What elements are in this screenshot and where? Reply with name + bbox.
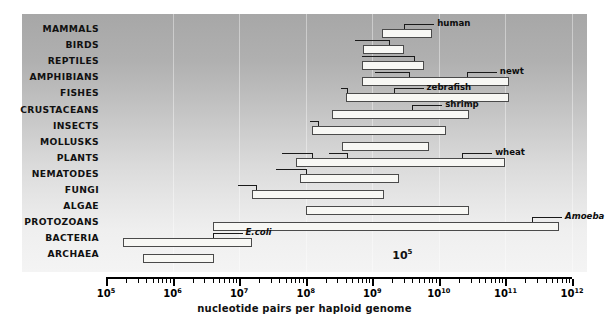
category-label-fungi: FUNGI [65,185,99,194]
leader-line [310,121,318,122]
organism-label: E.coli [246,228,272,237]
axis-major-tick [106,279,108,286]
category-label-birds: BIRDS [66,40,100,49]
axis-minor-tick [146,279,147,283]
axis-major-tick [306,279,308,286]
gridline [173,14,174,272]
axis-minor-tick [392,279,393,283]
axis-minor-tick [303,279,304,283]
axis-minor-tick [213,279,214,283]
leader-tick [414,56,415,61]
leader-tick [467,72,468,77]
gridline [439,14,440,272]
range-bar [382,29,432,38]
leader-tick [404,24,405,29]
range-bar [363,45,404,54]
category-label-mammals: MAMMALS [42,24,99,33]
leader-tick [412,105,413,110]
leader-tick [312,153,313,158]
leader-tick [462,153,463,158]
axis-tick-label: 1011 [494,287,517,299]
leader-line [404,24,434,25]
category-label-algae: ALGAE [63,201,99,210]
leader-tick [318,121,319,126]
axis-major-tick [173,279,175,286]
axis-minor-tick [525,279,526,283]
gridline [306,14,307,272]
axis-minor-tick [259,279,260,283]
leader-line [362,56,414,57]
axis-minor-tick [424,279,425,283]
axis-minor-tick [286,279,287,283]
axis-tick-label: 105 [97,287,115,299]
axis-minor-tick [546,279,547,283]
axis-tick-label: 1012 [561,287,584,299]
leader-line [412,105,442,106]
leader-line [394,88,424,89]
leader-tick [409,72,410,77]
leader-line [375,72,409,73]
axis-minor-tick [291,279,292,283]
axis-minor-tick [459,279,460,283]
category-label-crustaceans: CRUSTACEANS [20,105,99,114]
leader-line [467,72,497,73]
range-bar [342,142,429,151]
axis-tick-label: 109 [363,287,381,299]
organism-label: human [437,19,470,28]
organism-label: shrimp [445,100,479,109]
axis-minor-tick [352,279,353,283]
axis-minor-tick [224,279,225,283]
category-label-plants: PLANTS [57,153,99,162]
category-label-fishes: FISHES [60,88,99,97]
category-label-nematodes: NEMATODES [32,169,99,178]
organism-label: Amoeba [565,212,604,221]
leader-tick [347,153,348,158]
axis-minor-tick [299,279,300,283]
axis-minor-tick [495,279,496,283]
axis-minor-tick [491,279,492,283]
leader-line [462,153,492,154]
axis-minor-tick [158,279,159,283]
axis-minor-tick [326,279,327,283]
category-label-amphibians: AMPHIBIANS [30,72,99,81]
axis-minor-tick [236,279,237,283]
leader-line [532,217,562,218]
axis-minor-tick [485,279,486,283]
axis-minor-tick [346,279,347,283]
leader-line [329,153,347,154]
category-label-protozoans: PROTOZOANS [24,217,99,226]
category-label-insects: INSECTS [53,121,99,130]
range-bar [143,254,214,263]
leader-tick [532,217,533,222]
axis-minor-tick [471,279,472,283]
category-label-mollusks: MOLLUSKS [40,137,99,146]
axis-minor-tick [569,279,570,283]
x-axis: 105106107108109101010111012 [106,277,572,279]
axis-minor-tick [432,279,433,283]
axis-minor-tick [295,279,296,283]
axis-minor-tick [126,279,127,283]
axis-minor-tick [358,279,359,283]
leader-tick [306,169,307,174]
axis-minor-tick [499,279,500,283]
axis-minor-tick [166,279,167,283]
axis-minor-tick [162,279,163,283]
leader-line [276,169,306,170]
axis-tick-label: 108 [296,287,314,299]
axis-minor-tick [404,279,405,283]
leader-tick [347,88,348,93]
range-bar [306,206,469,215]
leader-line [282,153,312,154]
axis-minor-tick [153,279,154,283]
range-bar [296,158,506,167]
axis-minor-tick [138,279,139,283]
gridline [572,14,573,272]
axis-minor-tick [502,279,503,283]
organism-label: newt [500,67,524,76]
range-bar [346,93,509,102]
x-axis-title: nucleotide pairs per haploid genome [0,303,609,314]
axis-major-tick [505,279,507,286]
axis-minor-tick [537,279,538,283]
axis-minor-tick [229,279,230,283]
category-label-bacteria: BACTERIA [45,233,99,242]
